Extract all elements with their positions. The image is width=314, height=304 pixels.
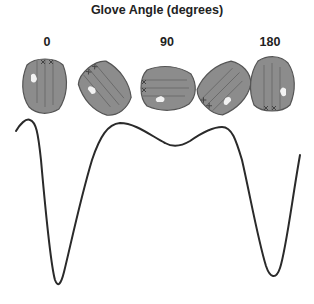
- glove-diagram: [0, 0, 314, 304]
- response-curve: [16, 120, 300, 285]
- glove-icon-90: [141, 67, 195, 111]
- glove-icon-180: [251, 57, 295, 111]
- glove-icon-0: [23, 59, 67, 113]
- glove-icon-45: [71, 54, 139, 124]
- glove-icon-135: [190, 53, 259, 122]
